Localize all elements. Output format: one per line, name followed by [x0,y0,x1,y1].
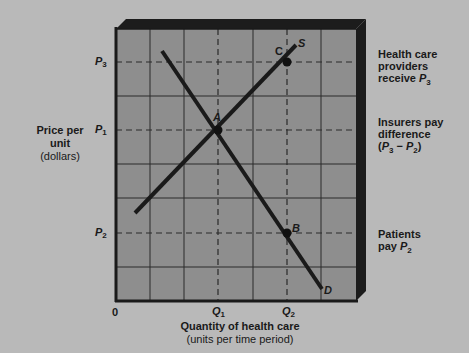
note-insurers: Insurers pay difference (P3 − P2) [378,116,443,157]
box-side-face [356,19,366,301]
y-tick-p2: P2 [95,226,107,240]
point-c-label: C [275,45,283,57]
x-tick-q1: Q1 [212,305,225,319]
supply-curve-label: S [298,37,305,49]
point-b [283,229,292,238]
y-axis-title-units: (dollars) [40,150,80,162]
origin-label: 0 [112,306,118,318]
note-patients: Patients pay P2 [378,228,421,257]
y-tick-p3: P3 [95,55,107,69]
x-axis-title: Quantity of health care (units per time … [150,320,330,346]
demand-curve-label: D [324,284,332,296]
y-axis-title: Price per unit (dollars) [20,124,100,163]
x-tick-q2: Q2 [282,305,295,319]
y-axis-title-line1: Price per [20,124,100,137]
point-c [283,58,292,67]
x-axis-title-line1: Quantity of health care [180,320,299,332]
point-a-label: A [213,111,221,123]
x-axis-title-units: (units per time period) [187,333,294,345]
note-providers: Health care providers receive P3 [378,48,437,89]
y-axis-title-line2: unit [20,137,100,150]
box-top-face [116,19,366,29]
plot-area [116,29,356,301]
point-b-label: B [292,222,300,234]
point-a [214,126,223,135]
